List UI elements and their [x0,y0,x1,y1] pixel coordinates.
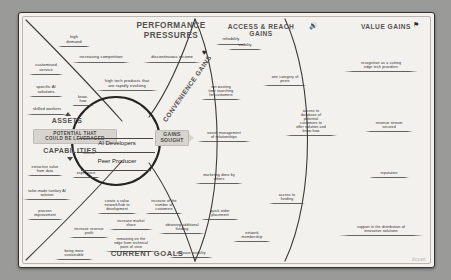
note-increase-number-of-customers: increase of the number of customers [143,199,185,211]
note-reputation: reputation [367,171,411,175]
note-access-to-funding: access to funding [267,193,307,201]
megaphone-icon: 🔊 [309,22,318,30]
flag-icon: ⚑ [413,21,419,29]
persona-peer-producer: Peer Producer [75,158,159,164]
note-access-to-database: access to database of potential customer… [283,109,339,133]
persona-rule-mid [77,152,155,153]
note-remaining-on-the-edge: remaining on the edge from technical poi… [103,237,159,249]
note-obtaining-additional-funding: obtaining additional funding [157,223,207,231]
note-marketing-done-by-others: marketing done by others [193,173,245,181]
note-tailor-made-turnkey-ai-solution: tailor-made turnkey AI solution [21,189,73,197]
note-easier-management-relationships: easier management of relationships [195,131,253,139]
note-high-demand: high demand [57,35,91,44]
heading-access-reach-gains: ACCESS & REACH GAINS [215,23,307,37]
note-customised-service: customised service [27,63,65,72]
note-know-how: know- how [71,95,95,103]
note-quick-order-placement: quick order placement [199,209,241,217]
screenshot-canvas: PERFORMANCE PRESSURES ACCESS & REACH GAI… [0,0,451,280]
canvas-sheet: PERFORMANCE PRESSURES ACCESS & REACH GAI… [18,12,435,268]
note-process-improvement: process improvement [25,209,65,217]
note-network-membership: network membership [231,231,273,239]
heading-assets: ASSETS [41,117,93,124]
note-support-distribution-innovative: support in the distribution of innovativ… [335,225,427,233]
note-experience: experience [71,171,101,175]
down-arrow-icon [67,157,73,161]
label-gains-sought: GAINS SOUGHT [155,130,189,146]
note-revenue-stream-secured: revenue stream secured [363,121,415,129]
note-high-tech-products: high tech products that are rapidly evol… [93,79,161,88]
note-being-more-sustainable: being more sustainable [53,249,95,257]
persona-ai-developers: AI Developers [75,140,159,146]
note-extractive-value-from-data: extractive value from data [25,165,65,173]
note-create-value-network: create a value network/hub to developmen… [95,199,139,211]
note-one-category-of-peers: one category of peers [261,75,309,83]
note-increase-visibility: increase visibility [167,251,215,255]
note-skilled-workers: skilled workers [25,107,69,112]
note-not-wasting-time-searching: not wasting time searching for customers [199,85,243,97]
watermark: dcsan [412,257,426,262]
note-increase-revenue-profit: increase revenue profit [67,227,111,235]
note-increasing-competition: increasing competition [69,55,133,60]
note-reliability: reliability [215,37,247,42]
heading-performance-pressures: PERFORMANCE PRESSURES [111,21,231,41]
note-discontinuous-income: discontinuous income [141,55,203,60]
note-increase-market-share: increase market share [107,219,155,227]
heading-value-gains: VALUE GAINS [349,23,411,30]
note-visibility: visibility [227,43,263,47]
persona-rule-top [79,138,153,139]
note-recognition-cutting-edge: recognition as a cutting edge tech provi… [341,61,421,69]
note-specific-ai-solutions: specific AI solutions [27,85,65,94]
